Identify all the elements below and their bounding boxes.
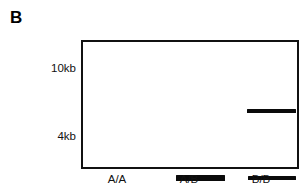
band-lane-ab-10kb	[247, 109, 296, 113]
size-marker-label-10kb: 10kb	[51, 62, 76, 74]
lane-label-bb: B/B	[231, 173, 291, 186]
panel-letter-label: B	[10, 9, 22, 26]
lane-label-aa: A/A	[87, 173, 147, 186]
size-marker-label-4kb: 4kb	[57, 130, 76, 142]
figure-panel-b: B 10kb 4kb A/A A/B B/B	[0, 0, 308, 194]
lane-label-ab: A/B	[159, 173, 219, 186]
gel-box	[81, 40, 299, 169]
